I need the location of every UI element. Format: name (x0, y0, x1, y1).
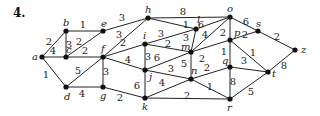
edge-weight: 2 (82, 45, 88, 56)
edge-weight: 2 (204, 62, 210, 73)
node-label: a (32, 51, 38, 62)
edge-weight: 1 (183, 19, 189, 30)
node-label: m (181, 41, 190, 52)
node-n (188, 76, 193, 81)
edge-h-o (148, 17, 230, 18)
node-label: p (234, 27, 241, 38)
weighted-graph: 2411322543332428132366342364522622112138… (0, 0, 320, 116)
node-label: i (143, 30, 146, 41)
edge-weight: 3 (119, 12, 125, 23)
node-z (292, 47, 297, 52)
edge-weight: 3 (145, 51, 151, 62)
node-h (145, 15, 150, 20)
edge-weight: 3 (158, 28, 164, 39)
node-e (100, 28, 105, 33)
edge-weight: 2 (120, 37, 126, 48)
edge-weights: 2411322543332428132366342364522622112138… (43, 6, 287, 103)
node-b (63, 28, 68, 33)
node-label: z (300, 44, 307, 55)
edge-weight: 4 (202, 29, 208, 40)
node-label: e (101, 18, 107, 29)
edge-weight: 4 (159, 77, 165, 88)
node-label: t (272, 68, 277, 79)
node-label: n (191, 65, 197, 76)
node-j (142, 67, 147, 72)
edge-weight: 4 (79, 88, 85, 99)
edge-weight: 2 (220, 27, 226, 38)
node-f (100, 54, 105, 59)
edge-weight: 5 (181, 58, 187, 69)
node-label: b (63, 17, 69, 28)
edge-weight: 5 (248, 86, 254, 97)
node-label: j (147, 71, 152, 82)
edge-weight: 1 (250, 47, 256, 58)
node-i (142, 41, 147, 46)
node-g (100, 84, 105, 89)
node-label: l (197, 14, 200, 25)
node-label: c (66, 44, 72, 55)
node-label: k (142, 101, 148, 112)
edge-weight: 2 (117, 92, 123, 103)
edge-weight: 2 (242, 29, 248, 40)
edge-weight: 8 (281, 60, 287, 71)
edge-weight: 1 (80, 19, 86, 30)
node-a (39, 54, 44, 59)
node-label: d (64, 91, 70, 102)
node-label: g (100, 90, 106, 101)
edge-weight: 6 (243, 16, 249, 27)
edge-weight: 1 (207, 81, 213, 92)
node-labels: abcdefghijklmnopqrstz (32, 3, 307, 113)
edge-weight: 2 (165, 38, 171, 49)
node-l (193, 26, 198, 31)
node-label: s (256, 18, 261, 29)
node-c (63, 54, 68, 59)
node-d (63, 84, 68, 89)
edge-weight: 1 (43, 69, 49, 80)
edge-weight: 3 (241, 55, 247, 66)
edge-weight: 3 (168, 63, 174, 74)
edge-weight: 6 (154, 52, 160, 63)
edge-weight: 5 (75, 65, 81, 76)
edge-weight: 3 (103, 66, 109, 77)
edge-weight: 2 (274, 31, 280, 42)
node-label: r (227, 102, 233, 113)
node-label: h (145, 4, 151, 15)
node-s (255, 28, 260, 33)
edge-d-f (66, 57, 103, 87)
node-o (227, 14, 232, 19)
edge-weight: 6 (134, 80, 140, 91)
node-label: q (222, 55, 228, 66)
node-r (227, 96, 232, 101)
node-p (227, 37, 232, 42)
edge-weight: 8 (230, 76, 236, 87)
node-label: o (227, 3, 233, 14)
node-k (142, 95, 147, 100)
edge-weight: 2 (184, 90, 190, 101)
edge-weight: 4 (125, 54, 131, 65)
node-label: f (100, 43, 107, 54)
edge-weight: 8 (180, 6, 186, 17)
edge-weight: 4 (50, 45, 56, 56)
node-t (265, 69, 270, 74)
